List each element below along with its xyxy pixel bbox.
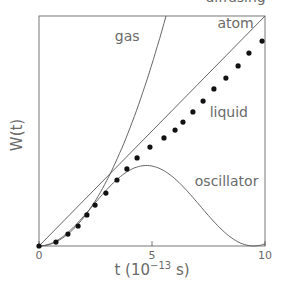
annotation-atom: atom [217, 15, 253, 31]
liquid-data-point [36, 243, 41, 248]
liquid-data-point [147, 145, 152, 150]
liquid-data-point [124, 166, 129, 171]
diffusing-atom-curve [39, 16, 265, 246]
gas-curve [39, 16, 166, 246]
liquid-data-point [134, 155, 139, 160]
y-axis-label: W(t) [8, 119, 26, 151]
x-axis-ticks [39, 241, 265, 246]
x-axis-label-exponent: −13 [150, 260, 171, 271]
series-lines [39, 16, 265, 246]
liquid-data-point [246, 50, 251, 55]
x-tick-label: 10 [258, 249, 272, 262]
liquid-data-point [236, 63, 241, 68]
annotation-liquid: liquid [210, 104, 248, 120]
x-tick-label: 0 [36, 249, 43, 262]
liquid-data-point [92, 202, 97, 207]
liquid-data-point [223, 76, 228, 81]
liquid-data-point [172, 127, 177, 132]
liquid-data-point [180, 119, 185, 124]
annotation-diffusing: diffusing [205, 0, 265, 5]
annotation-gas: gas [115, 28, 140, 44]
liquid-data-point [53, 239, 58, 244]
liquid-data-point [75, 223, 80, 228]
liquid-data-point [84, 212, 89, 217]
x-axis-label: t (10−13 s) [114, 260, 189, 279]
x-axis-label-base: t (10 [114, 261, 150, 279]
liquid-data-point [103, 191, 108, 196]
annotations: gasdiffusingatomliquidoscillator [115, 0, 266, 189]
liquid-data-point [65, 231, 70, 236]
liquid-data-point [190, 109, 195, 114]
liquid-data-point [200, 99, 205, 104]
figure: 0510 gasdiffusingatomliquidoscillator W(… [0, 0, 287, 292]
liquid-data-point [161, 135, 166, 140]
x-axis-label-unit: s) [171, 261, 189, 279]
liquid-data-point [114, 177, 119, 182]
annotation-oscillator: oscillator [195, 173, 259, 189]
liquid-data-point [211, 86, 216, 91]
liquid-data-point [259, 38, 264, 43]
